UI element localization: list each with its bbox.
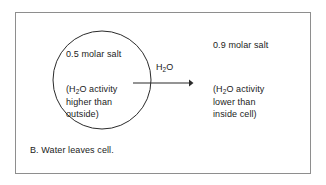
figure-caption: B. Water leaves cell. — [30, 145, 114, 156]
outside-activity-prefix: (H — [213, 84, 223, 94]
outside-water-activity-label: (H2O activity lower than inside cell) — [213, 84, 264, 120]
water-flow-arrow-label: H2O — [156, 62, 173, 75]
inside-water-activity-label: (H2O activity higher than outside) — [66, 84, 117, 120]
inside-concentration-label: 0.5 molar salt — [66, 49, 121, 61]
water-label-prefix: H — [156, 62, 163, 72]
inside-activity-prefix: (H — [66, 84, 76, 94]
water-label-suffix: O — [166, 62, 173, 72]
osmosis-diagram-screenshot: 0.5 molar salt (H2O activity higher than… — [0, 0, 326, 185]
outside-concentration-label: 0.9 molar salt — [213, 40, 268, 52]
